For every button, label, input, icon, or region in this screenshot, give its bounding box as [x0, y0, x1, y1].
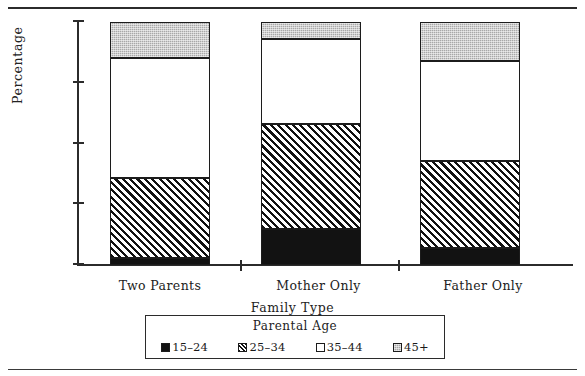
legend-label-15-24: 15–24 [172, 340, 208, 354]
legend-item-45-plus[interactable]: 45+ [393, 340, 429, 354]
bar-mother-only[interactable] [261, 22, 361, 265]
x-axis-label-father-only: Father Only [398, 278, 568, 293]
legend-swatch-black-icon [161, 343, 170, 352]
bar-segment-35-44 [261, 39, 361, 124]
legend-item-35-44[interactable]: 35–44 [316, 340, 363, 354]
plot-area: 0 25 50 75 100 [78, 22, 572, 265]
bar-segment-25-34 [420, 161, 520, 248]
legend-label-25-34: 25–34 [249, 340, 285, 354]
bar-father-only[interactable] [420, 22, 520, 265]
legend-label-35-44: 35–44 [327, 340, 363, 354]
bar-segment-15-24 [110, 258, 210, 265]
bar-segment-15-24 [261, 229, 361, 265]
legend-title: Parental Age [146, 319, 444, 333]
bottom-divider-rule [8, 369, 577, 370]
figure-container: Percentage 0 25 50 75 100 [0, 0, 585, 376]
x-axis-title: Family Type [0, 300, 585, 315]
legend-swatch-white-icon [316, 343, 325, 352]
bar-segment-35-44 [420, 61, 520, 161]
legend-swatch-hatch-icon [238, 343, 247, 352]
y-tick-75 [73, 81, 84, 83]
legend-item-25-34[interactable]: 25–34 [238, 340, 285, 354]
x-tick-separator-1 [240, 260, 242, 271]
bar-segment-35-44 [110, 58, 210, 177]
legend-swatch-gray-icon [393, 343, 402, 352]
y-axis-title: Percentage [10, 26, 25, 104]
x-axis-label-two-parents: Two Parents [80, 278, 240, 293]
y-tick-0 [73, 263, 84, 265]
bar-segment-45-plus [420, 22, 520, 61]
bar-segment-25-34 [110, 178, 210, 258]
legend-items: 15–24 25–34 35–44 45+ [146, 340, 444, 354]
bar-segment-15-24 [420, 248, 520, 265]
y-tick-25 [73, 202, 84, 204]
x-tick-separator-2 [398, 260, 400, 271]
bar-segment-45-plus [261, 22, 361, 39]
x-axis-label-mother-only: Mother Only [236, 278, 401, 293]
caption-fragment [60, 0, 530, 6]
bar-two-parents[interactable] [110, 22, 210, 265]
y-tick-100 [73, 20, 84, 22]
legend: Parental Age 15–24 25–34 35–44 45+ [145, 315, 445, 359]
bar-segment-25-34 [261, 124, 361, 228]
top-divider-rule [8, 7, 577, 9]
bar-segment-45-plus [110, 22, 210, 58]
legend-label-45-plus: 45+ [404, 340, 429, 354]
y-tick-50 [73, 142, 84, 144]
legend-item-15-24[interactable]: 15–24 [161, 340, 208, 354]
